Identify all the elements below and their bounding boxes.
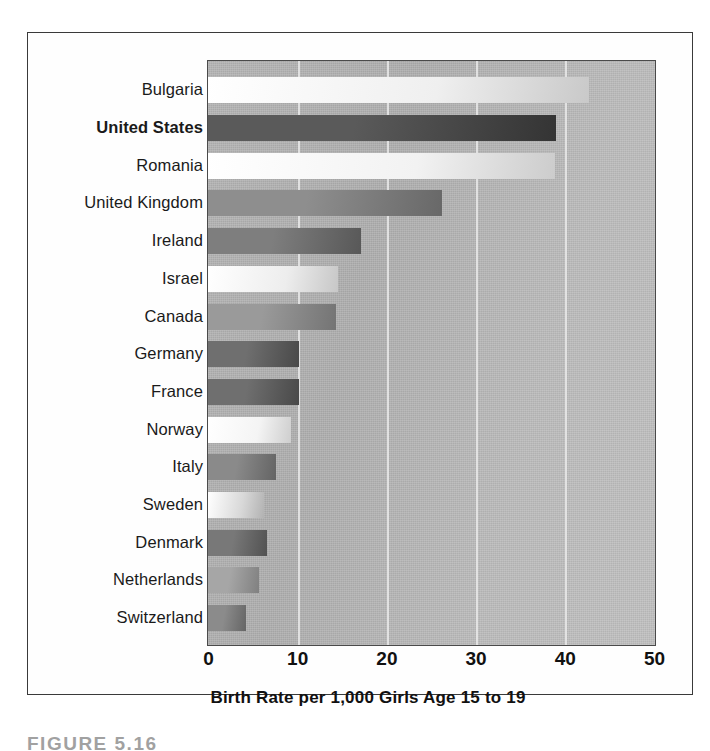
category-label-norway: Norway (28, 420, 203, 437)
gridline-30 (476, 61, 478, 645)
bar-row (208, 304, 336, 330)
bar-canada (208, 304, 336, 330)
bar-row (208, 605, 246, 631)
bar-row (208, 379, 299, 405)
x-tick-30: 30 (466, 649, 487, 668)
bar-france (208, 379, 299, 405)
category-label-denmark: Denmark (28, 533, 203, 550)
bar-row (208, 341, 299, 367)
bar-row (208, 153, 555, 179)
bar-row (208, 567, 259, 593)
bar-united-states (208, 115, 556, 141)
category-label-switzerland: Switzerland (28, 609, 203, 626)
x-tick-20: 20 (376, 649, 397, 668)
bar-row (208, 266, 338, 292)
bar-denmark (208, 530, 267, 556)
bar-switzerland (208, 605, 246, 631)
bar-italy (208, 454, 276, 480)
bar-row (208, 190, 442, 216)
category-label-canada: Canada (28, 307, 203, 324)
category-label-israel: Israel (28, 270, 203, 287)
gridline-40 (565, 61, 567, 645)
bar-row (208, 454, 276, 480)
category-label-united-states: United States (28, 119, 203, 136)
x-tick-50: 50 (644, 649, 665, 668)
category-label-sweden: Sweden (28, 496, 203, 513)
figure-frame: BulgariaUnited StatesRomaniaUnited Kingd… (27, 32, 693, 695)
bar-row (208, 77, 589, 103)
bar-row (208, 492, 264, 518)
gridline-50 (655, 61, 657, 645)
x-tick-40: 40 (555, 649, 576, 668)
x-axis-title: Birth Rate per 1,000 Girls Age 15 to 19 (68, 688, 668, 708)
category-label-romania: Romania (28, 157, 203, 174)
x-tick-10: 10 (287, 649, 308, 668)
bar-sweden (208, 492, 264, 518)
bar-row (208, 530, 267, 556)
gridline-20 (387, 61, 389, 645)
category-label-france: France (28, 383, 203, 400)
bar-israel (208, 266, 338, 292)
category-label-italy: Italy (28, 458, 203, 475)
bar-romania (208, 153, 555, 179)
bar-netherlands (208, 567, 259, 593)
bar-bulgaria (208, 77, 589, 103)
category-label-bulgaria: Bulgaria (28, 81, 203, 98)
category-label-united-kingdom: United Kingdom (28, 194, 203, 211)
x-tick-0: 0 (203, 649, 214, 668)
category-label-netherlands: Netherlands (28, 571, 203, 588)
category-label-germany: Germany (28, 345, 203, 362)
figure-caption: FIGURE 5.16 (27, 733, 158, 751)
bar-norway (208, 417, 291, 443)
category-label-ireland: Ireland (28, 232, 203, 249)
bar-row (208, 417, 291, 443)
x-axis-ticks: 01020304050 (207, 649, 656, 675)
bar-row (208, 115, 556, 141)
category-axis-labels: BulgariaUnited StatesRomaniaUnited Kingd… (28, 60, 203, 646)
chart-plot-area (207, 60, 656, 646)
bar-germany (208, 341, 299, 367)
bar-united-kingdom (208, 190, 442, 216)
bar-ireland (208, 228, 361, 254)
bar-row (208, 228, 361, 254)
